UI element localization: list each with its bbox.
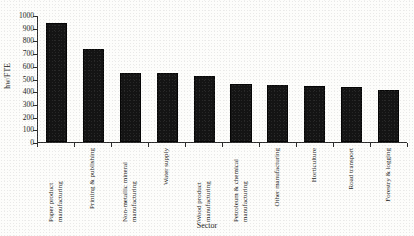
bar-slot (370, 16, 407, 142)
x-axis-tick-mark (37, 143, 38, 147)
x-axis-tick-mark (222, 143, 223, 147)
x-axis-tick-mark (74, 143, 75, 147)
y-axis-title-text: hw/FTE (3, 63, 12, 89)
bar-slot (149, 16, 186, 142)
x-axis-category-label-text: Water supply (162, 148, 171, 185)
x-axis-category-label: Horticulture (296, 148, 333, 224)
x-axis-tick-mark (370, 143, 371, 147)
plot-area (37, 16, 407, 143)
x-axis-category-label: Wood product manufacturing (185, 148, 222, 224)
bar-slot (223, 16, 260, 142)
x-axis-title-text: Sector (197, 221, 217, 230)
y-axis-tick-label: 1000 (19, 12, 34, 20)
bar-slot (38, 16, 75, 142)
x-axis-category-label-text: Paper product manufacturing (47, 148, 64, 222)
x-axis-category-labels: Paper product manufacturingPrinting & pu… (37, 148, 407, 224)
bar (83, 49, 104, 142)
x-axis-category-label-text: Horticulture (310, 148, 319, 182)
x-axis-category-label-text: Petroleum & chemical manufacturing (232, 148, 249, 222)
bar (230, 84, 251, 142)
x-axis-category-label-text: Road transport (347, 148, 356, 189)
bar (304, 86, 325, 142)
x-axis-tick-marks (37, 143, 407, 147)
x-axis-title: Sector (0, 221, 414, 230)
x-axis-category-label: Road transport (333, 148, 370, 224)
x-axis-tick-mark (185, 143, 186, 147)
bar-slot (259, 16, 296, 142)
x-axis-category-label: Non-metallic mineral manufacturing (111, 148, 148, 224)
bar-slot (112, 16, 149, 142)
bar-chart: hw/FTE 10009008007006005004003002001000 … (0, 0, 414, 236)
x-axis-tick-mark (148, 143, 149, 147)
x-axis-category-label: Forestry & logging (370, 148, 407, 224)
x-axis-category-label-text: Forestry & logging (384, 148, 393, 202)
x-axis-category-label: Water supply (148, 148, 185, 224)
x-axis-tick-mark (296, 143, 297, 147)
x-axis-category-label-text: Wood product manufacturing (195, 148, 212, 222)
x-axis-tick-mark (407, 143, 408, 147)
x-axis-category-label: Printing & publishing (74, 148, 111, 224)
x-axis-category-label-text: Printing & publishing (88, 148, 97, 209)
x-axis-tick-mark (333, 143, 334, 147)
bar (120, 73, 141, 142)
bar-slot (186, 16, 223, 142)
bar (46, 23, 67, 142)
x-axis-category-label: Petroleum & chemical manufacturing (222, 148, 259, 224)
x-axis-category-label-text: Non-metallic mineral manufacturing (121, 148, 138, 222)
x-axis-category-label: Paper product manufacturing (37, 148, 74, 224)
x-axis-category-label: Other manufacturing (259, 148, 296, 224)
bar (267, 85, 288, 142)
x-axis-tick-mark (111, 143, 112, 147)
bar-slot (333, 16, 370, 142)
bar-slot (296, 16, 333, 142)
bar (157, 73, 178, 142)
x-axis-tick-mark (259, 143, 260, 147)
bar (341, 87, 362, 142)
bar (378, 90, 399, 142)
x-axis-category-label-text: Other manufacturing (273, 148, 282, 207)
bar-slot (75, 16, 112, 142)
bar-series (38, 16, 407, 142)
bar (194, 76, 215, 142)
